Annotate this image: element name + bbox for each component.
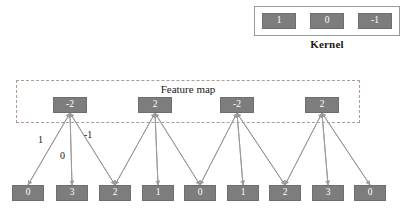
feature-map-node: 2 (138, 97, 172, 113)
connection-arrow (237, 113, 285, 185)
edge-group (28, 113, 370, 185)
input-node: 1 (227, 185, 259, 201)
connection-arrow (115, 113, 155, 185)
connection-arrow (322, 113, 328, 185)
connection-arrow (28, 113, 70, 185)
edge-weight-label: -1 (84, 129, 92, 140)
input-node: 1 (142, 185, 174, 201)
connection-arrow (285, 113, 322, 185)
connection-arrow (70, 113, 115, 185)
edge-weight-label: 1 (38, 134, 43, 145)
input-node: 3 (56, 185, 88, 201)
input-node: 0 (12, 185, 44, 201)
connection-arrow (200, 113, 237, 185)
connection-arrow (155, 113, 200, 185)
connection-arrow (237, 113, 285, 185)
feature-map-node: -2 (220, 97, 254, 113)
connection-arrow (322, 113, 328, 185)
feature-map-node: 2 (305, 97, 339, 113)
kernel-panel: 1 0 -1 (254, 6, 400, 36)
connection-arrow (237, 113, 243, 185)
input-node: 2 (269, 185, 301, 201)
connection-arrow (155, 113, 158, 185)
input-node: 0 (354, 185, 386, 201)
connection-arrow (322, 113, 370, 185)
connection-arrow (237, 113, 243, 185)
connection-arrow (115, 113, 155, 185)
connection-arrow (70, 113, 72, 185)
feature-map-node: -2 (53, 97, 87, 113)
kernel-title: Kernel (254, 38, 400, 50)
connection-arrow (70, 113, 72, 185)
edge-weight-label: 0 (60, 150, 65, 161)
kernel-cell: -1 (358, 13, 392, 29)
input-node: 2 (99, 185, 131, 201)
connection-arrow (200, 113, 237, 185)
input-node: 3 (312, 185, 344, 201)
connection-arrow (155, 113, 158, 185)
connection-arrow (285, 113, 322, 185)
connection-arrow (70, 113, 115, 185)
connection-arrow (322, 113, 370, 185)
kernel-cell-list: 1 0 -1 (255, 7, 399, 35)
connection-arrow (155, 113, 200, 185)
kernel-cell: 0 (310, 13, 344, 29)
convolution-diagram: 1 0 -1 Kernel Feature map -22-22 0321012… (0, 0, 407, 211)
input-node: 0 (184, 185, 216, 201)
connection-arrow (28, 113, 70, 185)
kernel-cell: 1 (262, 13, 296, 29)
feature-map-title: Feature map (16, 83, 360, 95)
